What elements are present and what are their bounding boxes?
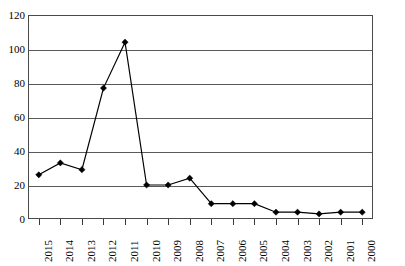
y-tick-label: 80	[1, 78, 25, 89]
data-point-marker	[100, 85, 106, 91]
x-tick	[276, 219, 277, 225]
data-point-marker	[316, 211, 322, 217]
x-tick	[82, 219, 83, 225]
x-tick	[211, 219, 212, 225]
x-tick	[254, 219, 255, 225]
y-tick-label: 120	[1, 10, 25, 21]
x-tick	[125, 219, 126, 225]
x-tick	[190, 219, 191, 225]
x-tick-label: 2009	[172, 224, 183, 262]
x-tick-label: 2000	[366, 224, 377, 262]
x-tick	[147, 219, 148, 225]
y-axis: 020406080100120	[0, 15, 25, 219]
data-series-layer	[28, 15, 373, 219]
data-point-marker	[294, 209, 300, 215]
x-tick-label: 2003	[302, 224, 313, 262]
y-tick-label: 40	[1, 146, 25, 157]
data-point-marker	[36, 172, 42, 178]
x-axis: 2015201420132012201120102009200820072006…	[28, 226, 373, 264]
x-tick-label: 2014	[64, 224, 75, 262]
x-tick	[103, 219, 104, 225]
series-line	[39, 42, 362, 214]
data-point-marker	[338, 209, 344, 215]
data-point-marker	[79, 167, 85, 173]
x-tick	[362, 219, 363, 225]
line-chart: 020406080100120 201520142013201220112010…	[0, 0, 405, 266]
x-tick	[168, 219, 169, 225]
x-tick-label: 2004	[280, 224, 291, 262]
y-tick-label: 60	[1, 112, 25, 123]
data-point-marker	[273, 209, 279, 215]
x-tick	[319, 219, 320, 225]
data-point-marker	[57, 160, 63, 166]
x-tick-label: 2001	[345, 224, 356, 262]
y-tick-label: 0	[1, 214, 25, 225]
x-tick-label: 2006	[237, 224, 248, 262]
data-point-marker	[230, 201, 236, 207]
x-tick-label: 2010	[151, 224, 162, 262]
x-tick-label: 2005	[258, 224, 269, 262]
y-tick-label: 20	[1, 180, 25, 191]
x-tick-label: 2008	[194, 224, 205, 262]
data-point-marker	[122, 39, 128, 45]
data-point-marker	[359, 209, 365, 215]
x-tick	[298, 219, 299, 225]
x-tick	[341, 219, 342, 225]
x-tick	[60, 219, 61, 225]
x-tick	[39, 219, 40, 225]
y-tick-label: 100	[1, 44, 25, 55]
x-tick-label: 2011	[129, 224, 140, 262]
data-point-marker	[165, 182, 171, 188]
x-tick-label: 2015	[43, 224, 54, 262]
x-tick	[233, 219, 234, 225]
x-tick-label: 2013	[86, 224, 97, 262]
data-point-marker	[143, 182, 149, 188]
x-tick-label: 2007	[215, 224, 226, 262]
x-tick-label: 2002	[323, 224, 334, 262]
data-point-marker	[251, 201, 257, 207]
x-tick-label: 2012	[107, 224, 118, 262]
